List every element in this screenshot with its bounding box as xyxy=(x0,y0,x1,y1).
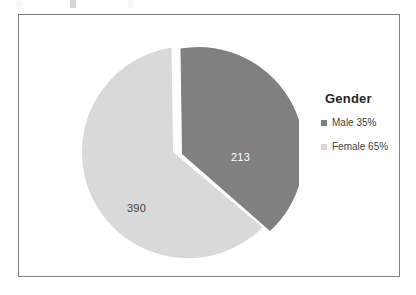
pie-svg xyxy=(49,43,299,265)
pie-chart: 213 390 xyxy=(49,43,299,265)
legend-swatch-icon xyxy=(321,144,327,150)
legend-item-female[interactable]: Female 65% xyxy=(321,142,416,152)
legend-title: Gender xyxy=(325,91,416,106)
legend-swatch-icon xyxy=(321,120,327,126)
chart-screenshot: 213 390 Gender Male 35% Female 65% xyxy=(0,0,416,295)
scan-artifact xyxy=(16,0,23,8)
pie-label-male: 213 xyxy=(231,151,250,163)
scan-artifact xyxy=(128,0,133,8)
chart-frame: 213 390 Gender Male 35% Female 65% xyxy=(18,14,400,277)
legend-item-male[interactable]: Male 35% xyxy=(321,118,416,128)
legend-item-label: Female 65% xyxy=(332,142,388,152)
legend-item-label: Male 35% xyxy=(332,118,376,128)
chart-legend: Gender Male 35% Female 65% xyxy=(321,91,416,166)
scan-artifact xyxy=(70,0,76,8)
pie-label-female: 390 xyxy=(127,202,146,214)
